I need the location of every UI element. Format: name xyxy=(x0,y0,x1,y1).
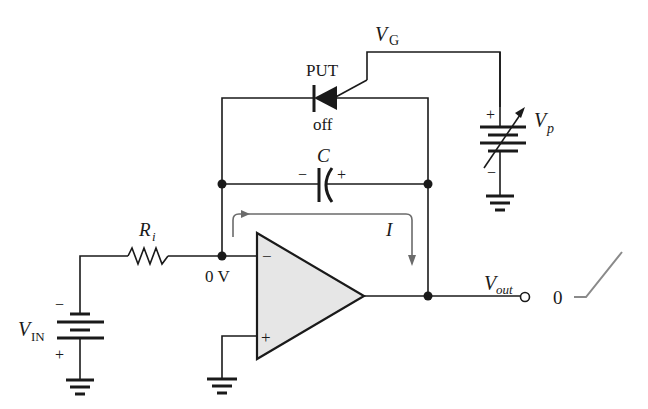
vout-sub: out xyxy=(496,282,513,297)
ri-sub: i xyxy=(152,229,156,244)
ground-icon xyxy=(66,380,94,394)
circuit-diagram: V G PUT off + − V p C − + xyxy=(0,0,648,409)
waveform-zero-label: 0 xyxy=(553,287,563,308)
opamp-inverting-label: − xyxy=(262,247,272,266)
ri-label: R xyxy=(138,219,151,240)
vin-sub: IN xyxy=(31,329,45,344)
vin-plus: + xyxy=(55,346,64,363)
vp-minus: − xyxy=(487,164,496,181)
output-terminal xyxy=(521,293,530,302)
opamp-noninverting-label: + xyxy=(261,328,271,347)
junction-dot xyxy=(424,292,433,301)
current-label: I xyxy=(385,219,394,240)
opamp-icon xyxy=(257,233,364,359)
cap-plus: + xyxy=(337,166,346,183)
put-label: PUT xyxy=(306,61,339,80)
cap-label: C xyxy=(317,145,330,166)
ramp-waveform xyxy=(574,252,622,297)
vp-plus: + xyxy=(486,106,495,123)
node-voltage-label: 0 V xyxy=(205,267,230,286)
noninv-wire xyxy=(222,336,257,378)
vin-minus: − xyxy=(55,296,64,313)
ground-icon xyxy=(207,379,237,393)
vp-sub: p xyxy=(546,121,554,136)
put-state-label: off xyxy=(313,115,333,134)
resistor-icon xyxy=(128,248,168,264)
input-wire xyxy=(80,256,257,314)
vg-label: V xyxy=(375,23,390,45)
vg-sub: G xyxy=(389,33,399,48)
cap-minus: − xyxy=(298,166,307,183)
junction-dot xyxy=(218,252,227,261)
put-branch xyxy=(222,98,428,184)
capacitor-branch xyxy=(222,168,428,202)
ground-icon xyxy=(486,196,514,210)
put-icon xyxy=(314,85,337,112)
vin-source xyxy=(57,314,104,379)
